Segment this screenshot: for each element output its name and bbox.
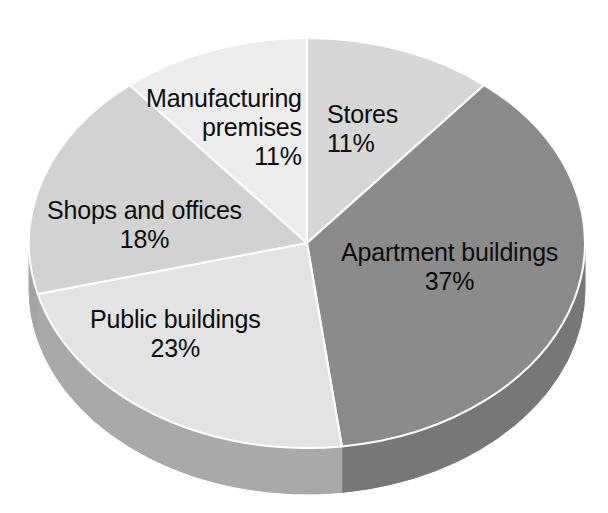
slice-label-manufacturing-premises-line1: Manufacturing	[146, 84, 302, 113]
slice-label-stores-line1: Stores	[327, 100, 398, 129]
slice-value-public-buildings: 23%	[90, 334, 261, 363]
slice-label-manufacturing-premises: Manufacturing premises 11%	[146, 84, 302, 171]
slice-label-apartment-buildings-line1: Apartment buildings	[341, 238, 558, 267]
slice-label-stores: Stores 11%	[327, 100, 398, 158]
slice-label-shops-and-offices-line1: Shops and offices	[47, 196, 242, 225]
slice-label-apartment-buildings: Apartment buildings 37%	[341, 238, 558, 296]
slice-value-manufacturing-premises: 11%	[146, 142, 302, 171]
slice-value-apartment-buildings: 37%	[341, 267, 558, 296]
slice-value-shops-and-offices: 18%	[47, 225, 242, 254]
slice-label-public-buildings-line1: Public buildings	[90, 305, 261, 334]
slice-label-shops-and-offices: Shops and offices 18%	[47, 196, 242, 254]
slice-value-stores: 11%	[327, 129, 398, 158]
slice-label-manufacturing-premises-line2: premises	[146, 113, 302, 142]
pie-chart: Manufacturing premises 11% Stores 11% Sh…	[0, 0, 608, 513]
slice-label-public-buildings: Public buildings 23%	[90, 305, 261, 363]
